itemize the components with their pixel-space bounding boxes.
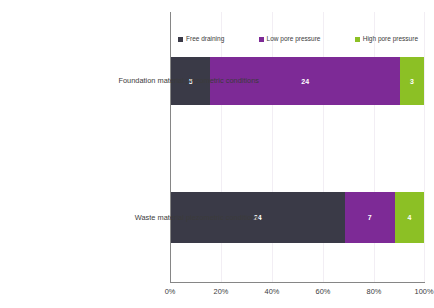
x-tick-label-40: 40%	[255, 288, 289, 295]
bar-segment-low-pore-pressure[interactable]: 7	[345, 192, 396, 243]
x-tick-label-20: 20%	[204, 288, 238, 295]
bar-segment-label: 4	[408, 214, 412, 221]
x-tick-label-0: 0%	[153, 288, 187, 295]
x-tick-label-60: 60%	[306, 288, 340, 295]
bar-segment-label: 24	[301, 78, 309, 85]
legend-label-high-pore-pressure: High pore pressure	[363, 36, 418, 43]
legend-item-low-pore-pressure[interactable]: Low pore pressure	[259, 36, 321, 43]
legend-item-high-pore-pressure[interactable]: High pore pressure	[355, 36, 418, 43]
category-label-waste: Waste material piezometric conditions	[98, 214, 264, 223]
legend-label-low-pore-pressure: Low pore pressure	[267, 36, 321, 43]
bar-segment-high-pore-pressure[interactable]: 4	[395, 192, 424, 243]
gridline-100	[424, 12, 425, 282]
legend-label-free-draining: Free draining	[186, 36, 224, 43]
legend-swatch-icon-free-draining	[178, 37, 183, 42]
legend-item-free-draining[interactable]: Free draining	[178, 36, 224, 43]
x-axis-line	[170, 282, 425, 283]
x-tick-label-80: 80%	[357, 288, 391, 295]
bar-segment-label: 7	[368, 214, 372, 221]
legend-swatch-icon-high-pore-pressure	[355, 37, 360, 42]
bar-segment-label: 3	[410, 78, 414, 85]
stacked-bar-chart: Free draining Low pore pressure High por…	[0, 0, 434, 308]
x-tick-label-100: 100%	[407, 288, 434, 295]
legend-swatch-icon-low-pore-pressure	[259, 37, 264, 42]
chart-legend: Free draining Low pore pressure High por…	[174, 31, 422, 47]
category-label-foundation: Foundation material piezometric conditio…	[98, 77, 264, 86]
bar-segment-high-pore-pressure[interactable]: 3	[400, 57, 424, 105]
